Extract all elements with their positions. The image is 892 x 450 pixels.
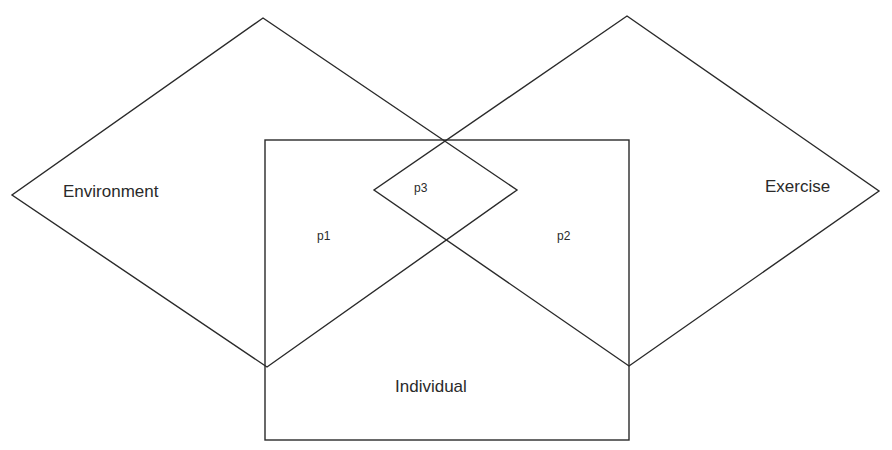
region-p1-label: p1 [317, 229, 331, 243]
diagram-canvas: Environment Exercise Individual p1 p2 p3 [0, 0, 892, 450]
exercise-label: Exercise [765, 177, 830, 196]
environment-label: Environment [63, 182, 159, 201]
individual-label: Individual [395, 377, 467, 396]
region-p3-label: p3 [414, 181, 428, 195]
region-p2-label: p2 [557, 229, 571, 243]
